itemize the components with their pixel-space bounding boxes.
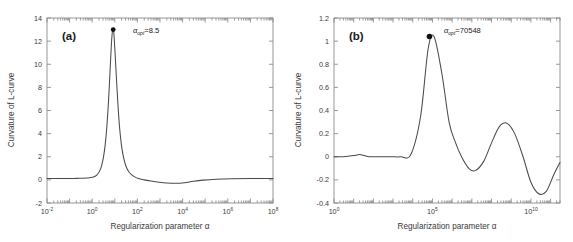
ytick-label: 0 — [38, 175, 42, 184]
panel-b-tag: (b) — [349, 30, 364, 42]
panel-a-yaxis-title: Curvature of L-curve — [7, 72, 16, 147]
ytick-label: 6 — [38, 106, 42, 115]
xtick-mantissa: 10 — [329, 207, 337, 216]
panel-a-tag: (a) — [62, 30, 76, 42]
panel-b-annotation-value: =70548 — [455, 26, 481, 35]
panel-b-xaxis-title: Regularization parameter α — [398, 222, 497, 231]
xtick-mantissa: 10 — [268, 207, 276, 216]
ytick-label: 8 — [38, 83, 42, 92]
panel-a-peak-marker — [111, 27, 116, 32]
ytick-label: 0.8 — [319, 60, 329, 69]
panel-b-peak-marker — [427, 34, 433, 40]
panel-a-annotation-value: =8.5 — [144, 26, 159, 35]
ytick-label: 0 — [325, 152, 329, 161]
ytick-label: 14 — [34, 14, 42, 23]
figure-container: -202468101214 10-2100102104106108 (a) αo… — [0, 0, 573, 242]
panel-a-annotation: αopt=8.5 — [133, 26, 159, 36]
chart-panel-b: -0.4-0.200.20.40.60.811.2 1001051010 (b)… — [287, 0, 573, 242]
panel-a-xaxis-title: Regularization parameter α — [111, 222, 210, 231]
xtick-exponent: 2 — [140, 207, 143, 212]
xtick-exponent: -2 — [49, 207, 54, 212]
ytick-label: 0.6 — [319, 83, 329, 92]
xtick-mantissa: 10 — [132, 207, 140, 216]
ytick-label: 2 — [38, 152, 42, 161]
ytick-label: 0.4 — [319, 106, 329, 115]
ytick-label: -0.4 — [317, 199, 329, 208]
panel-a-svg: -202468101214 10-2100102104106108 (a) αo… — [0, 0, 286, 242]
xtick-exponent: 0 — [95, 207, 98, 212]
ytick-label: 1 — [325, 37, 329, 46]
panel-b-yaxis-title: Curvature of L-curve — [294, 72, 303, 147]
chart-panel-a: -202468101214 10-2100102104106108 (a) αo… — [0, 0, 286, 242]
xtick-exponent: 5 — [435, 207, 438, 212]
ytick-label: 1.2 — [319, 14, 329, 23]
ytick-label: -0.2 — [317, 175, 329, 184]
xtick-mantissa: 10 — [41, 207, 49, 216]
xtick-exponent: 0 — [337, 207, 340, 212]
ytick-label: 12 — [34, 37, 42, 46]
xtick-mantissa: 10 — [177, 207, 185, 216]
ytick-label: 0.2 — [319, 129, 329, 138]
xtick-mantissa: 10 — [524, 207, 532, 216]
xtick-exponent: 6 — [230, 207, 233, 212]
xtick-mantissa: 10 — [87, 207, 95, 216]
ytick-label: 4 — [38, 129, 42, 138]
xtick-mantissa: 10 — [222, 207, 230, 216]
panel-b-svg: -0.4-0.200.20.40.60.811.2 1001051010 (b)… — [287, 0, 573, 242]
panel-a-background — [0, 0, 286, 242]
xtick-mantissa: 10 — [427, 207, 435, 216]
xtick-exponent: 10 — [532, 207, 538, 212]
xtick-exponent: 8 — [276, 207, 279, 212]
xtick-exponent: 4 — [185, 207, 188, 212]
ytick-label: 10 — [34, 60, 42, 69]
